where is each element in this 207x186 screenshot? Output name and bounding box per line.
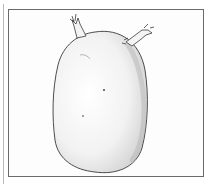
potato-body <box>53 31 147 172</box>
sprout-right-icon <box>122 24 154 46</box>
sprout-left-icon <box>70 14 86 38</box>
potato-eye <box>82 115 84 117</box>
potato-eye <box>103 89 105 91</box>
potato-illustration <box>0 0 207 186</box>
